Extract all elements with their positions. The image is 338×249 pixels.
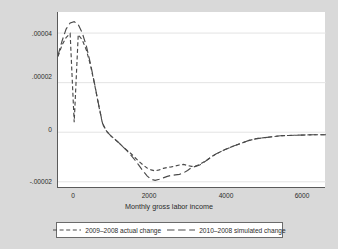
x-tick-label-2: 4000 (206, 192, 246, 199)
legend-entry-simulated[interactable]: 2010–2008 simulated change (167, 227, 286, 234)
x-tick-label-3: 6000 (282, 192, 322, 199)
legend-swatch-actual (53, 227, 81, 233)
figure-container: .00004 .00002 0 -.00002 0 2000 4000 6000… (0, 0, 338, 249)
plot-svg (58, 12, 326, 188)
y-tick-label-3: -.00002 (4, 178, 52, 185)
legend-entry-actual[interactable]: 2009–2008 actual change (53, 227, 161, 234)
x-tick-label-0: 0 (53, 192, 93, 199)
curve-simulated (58, 22, 326, 181)
x-axis-title: Monthly gross labor income (0, 202, 338, 211)
legend: 2009–2008 actual change 2010–2008 simula… (56, 222, 283, 238)
x-tick-label-1: 2000 (129, 192, 169, 199)
legend-swatch-simulated (167, 227, 195, 233)
plot-area (57, 12, 325, 188)
gridlines (58, 33, 326, 188)
y-tick-label-1: .00002 (8, 73, 52, 80)
y-tick-label-0: .00004 (8, 30, 52, 37)
curve-group (58, 22, 326, 181)
legend-label-simulated: 2010–2008 simulated change (199, 227, 286, 234)
y-tick-label-2: 0 (8, 126, 52, 133)
legend-label-actual: 2009–2008 actual change (85, 227, 161, 234)
